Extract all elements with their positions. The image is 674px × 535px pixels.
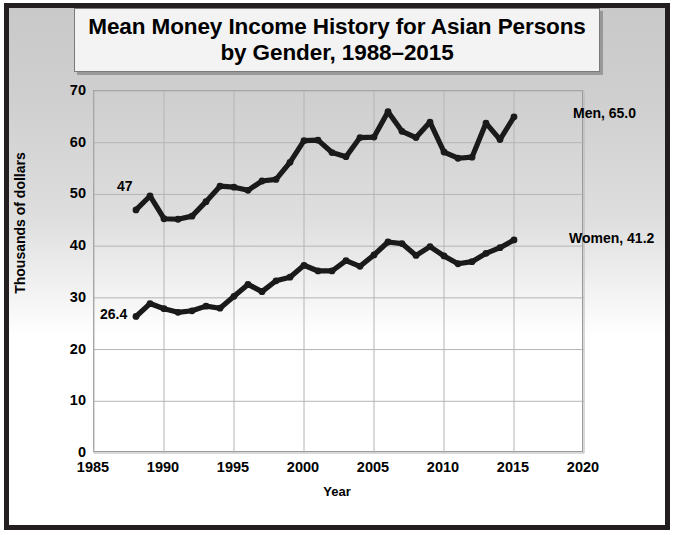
x-tick-label: 1985 <box>58 459 128 475</box>
annotation-women-start: 26.4 <box>100 306 127 322</box>
y-tick-label: 50 <box>46 185 86 201</box>
data-point-men <box>315 137 322 144</box>
y-tick-label: 70 <box>46 82 86 98</box>
x-tick-label: 2010 <box>408 459 478 475</box>
data-point-women <box>329 268 336 275</box>
data-point-women <box>483 250 490 257</box>
data-point-women <box>413 252 420 259</box>
x-tick-label: 2005 <box>338 459 408 475</box>
series-label-women: Women, 41.2 <box>569 230 654 246</box>
y-tick-label: 30 <box>46 289 86 305</box>
x-tick-label: 1990 <box>128 459 198 475</box>
x-axis-label: Year <box>0 484 674 499</box>
data-point-men <box>329 149 336 156</box>
data-point-women <box>497 244 504 251</box>
data-point-men <box>259 178 266 185</box>
data-point-women <box>511 237 518 244</box>
data-point-men <box>455 155 462 162</box>
data-point-women <box>203 303 210 310</box>
data-point-women <box>147 300 154 307</box>
data-point-women <box>357 263 364 270</box>
data-point-men <box>133 207 140 214</box>
data-point-women <box>371 252 378 259</box>
data-point-men <box>231 184 238 191</box>
data-point-women <box>455 260 462 267</box>
data-point-women <box>217 305 224 312</box>
chart-title-box: Mean Money Income History for Asian Pers… <box>74 8 600 72</box>
data-series-layer <box>94 91 584 453</box>
y-tick-label: 60 <box>46 134 86 150</box>
data-point-women <box>399 240 406 247</box>
data-point-men <box>343 153 350 160</box>
chart-figure: Mean Money Income History for Asian Pers… <box>0 0 674 535</box>
y-tick-label: 40 <box>46 237 86 253</box>
data-point-men <box>441 149 448 156</box>
data-point-men <box>469 154 476 161</box>
data-point-men <box>161 215 168 222</box>
data-point-men <box>357 134 364 141</box>
series-line-women <box>136 240 514 317</box>
data-point-men <box>301 137 308 144</box>
data-point-men <box>287 159 294 166</box>
data-point-women <box>343 257 350 264</box>
x-tick-label: 2015 <box>478 459 548 475</box>
data-point-women <box>273 277 280 284</box>
data-point-men <box>273 176 280 183</box>
data-point-men <box>427 119 434 126</box>
data-point-men <box>217 183 224 190</box>
data-point-women <box>427 243 434 250</box>
data-point-women <box>385 239 392 246</box>
y-axis-label: Thousands of dollars <box>12 123 28 323</box>
data-point-women <box>441 253 448 260</box>
plot-area <box>93 90 583 452</box>
data-point-women <box>133 313 140 320</box>
data-point-women <box>259 288 266 295</box>
data-point-men <box>483 120 490 127</box>
data-point-women <box>469 258 476 265</box>
annotation-men-start: 47 <box>117 178 133 194</box>
data-point-women <box>315 268 322 275</box>
series-label-men: Men, 65.0 <box>573 105 636 121</box>
data-point-women <box>287 274 294 281</box>
y-tick-label: 20 <box>46 341 86 357</box>
series-line-men <box>136 112 514 220</box>
data-point-men <box>385 108 392 115</box>
y-tick-label: 10 <box>46 392 86 408</box>
x-tick-label: 2020 <box>548 459 618 475</box>
data-point-women <box>245 281 252 288</box>
y-axis-ticks: 010203040506070 <box>38 90 86 452</box>
data-point-men <box>511 113 518 120</box>
data-point-men <box>189 213 196 220</box>
x-axis-ticks: 19851990199520002005201020152020 <box>93 459 583 481</box>
data-point-men <box>399 128 406 135</box>
data-point-men <box>371 134 378 141</box>
x-tick-label: 2000 <box>268 459 338 475</box>
data-point-women <box>301 262 308 269</box>
data-point-men <box>245 187 252 194</box>
data-point-men <box>497 136 504 143</box>
data-point-men <box>147 193 154 200</box>
data-point-women <box>175 309 182 316</box>
data-point-women <box>231 293 238 300</box>
data-point-men <box>413 134 420 141</box>
x-tick-label: 1995 <box>198 459 268 475</box>
page-title: Mean Money Income History for Asian Pers… <box>75 14 599 66</box>
data-point-men <box>203 198 210 205</box>
data-point-women <box>189 307 196 314</box>
y-tick-label: 0 <box>46 444 86 460</box>
data-point-men <box>175 216 182 223</box>
data-point-women <box>161 305 168 312</box>
